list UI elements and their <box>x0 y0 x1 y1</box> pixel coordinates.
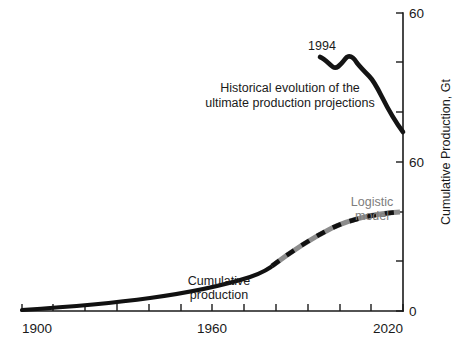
y-axis-ticks <box>396 13 403 311</box>
chart-figure: 60 60 0 1900 1960 2020 Cumulative Produc… <box>0 0 459 345</box>
annotation-historical-line2: ultimate production projections <box>205 96 375 110</box>
annotation-cumulative-line1: Cumulative <box>188 274 251 288</box>
y-tick-label-bottom: 0 <box>409 304 417 319</box>
x-tick-label-1900: 1900 <box>22 321 52 336</box>
x-tick-label-1960: 1960 <box>197 321 227 336</box>
annotation-historical-line1: Historical evolution of the <box>220 81 360 95</box>
y-tick-label-mid: 60 <box>409 155 424 170</box>
y-tick-label-top: 60 <box>409 6 424 21</box>
annotation-year-1994: 1994 <box>308 39 336 53</box>
annotation-logistic-line1: Logistic <box>351 195 393 209</box>
chart-svg: 60 60 0 1900 1960 2020 Cumulative Produc… <box>0 0 459 345</box>
x-tick-label-2020: 2020 <box>373 321 403 336</box>
y-axis-title: Cumulative Production, Gt <box>439 79 453 225</box>
annotation-cumulative-line2: production <box>190 288 248 302</box>
annotation-logistic-line2: model <box>355 209 389 223</box>
